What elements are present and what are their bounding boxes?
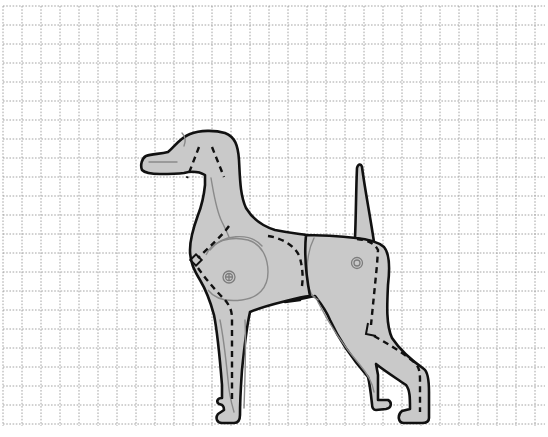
dog-template-figure: Dog paper model template <box>0 0 548 437</box>
background-grid <box>3 6 545 426</box>
tail-part <box>355 164 374 242</box>
diagram-canvas <box>0 0 548 437</box>
